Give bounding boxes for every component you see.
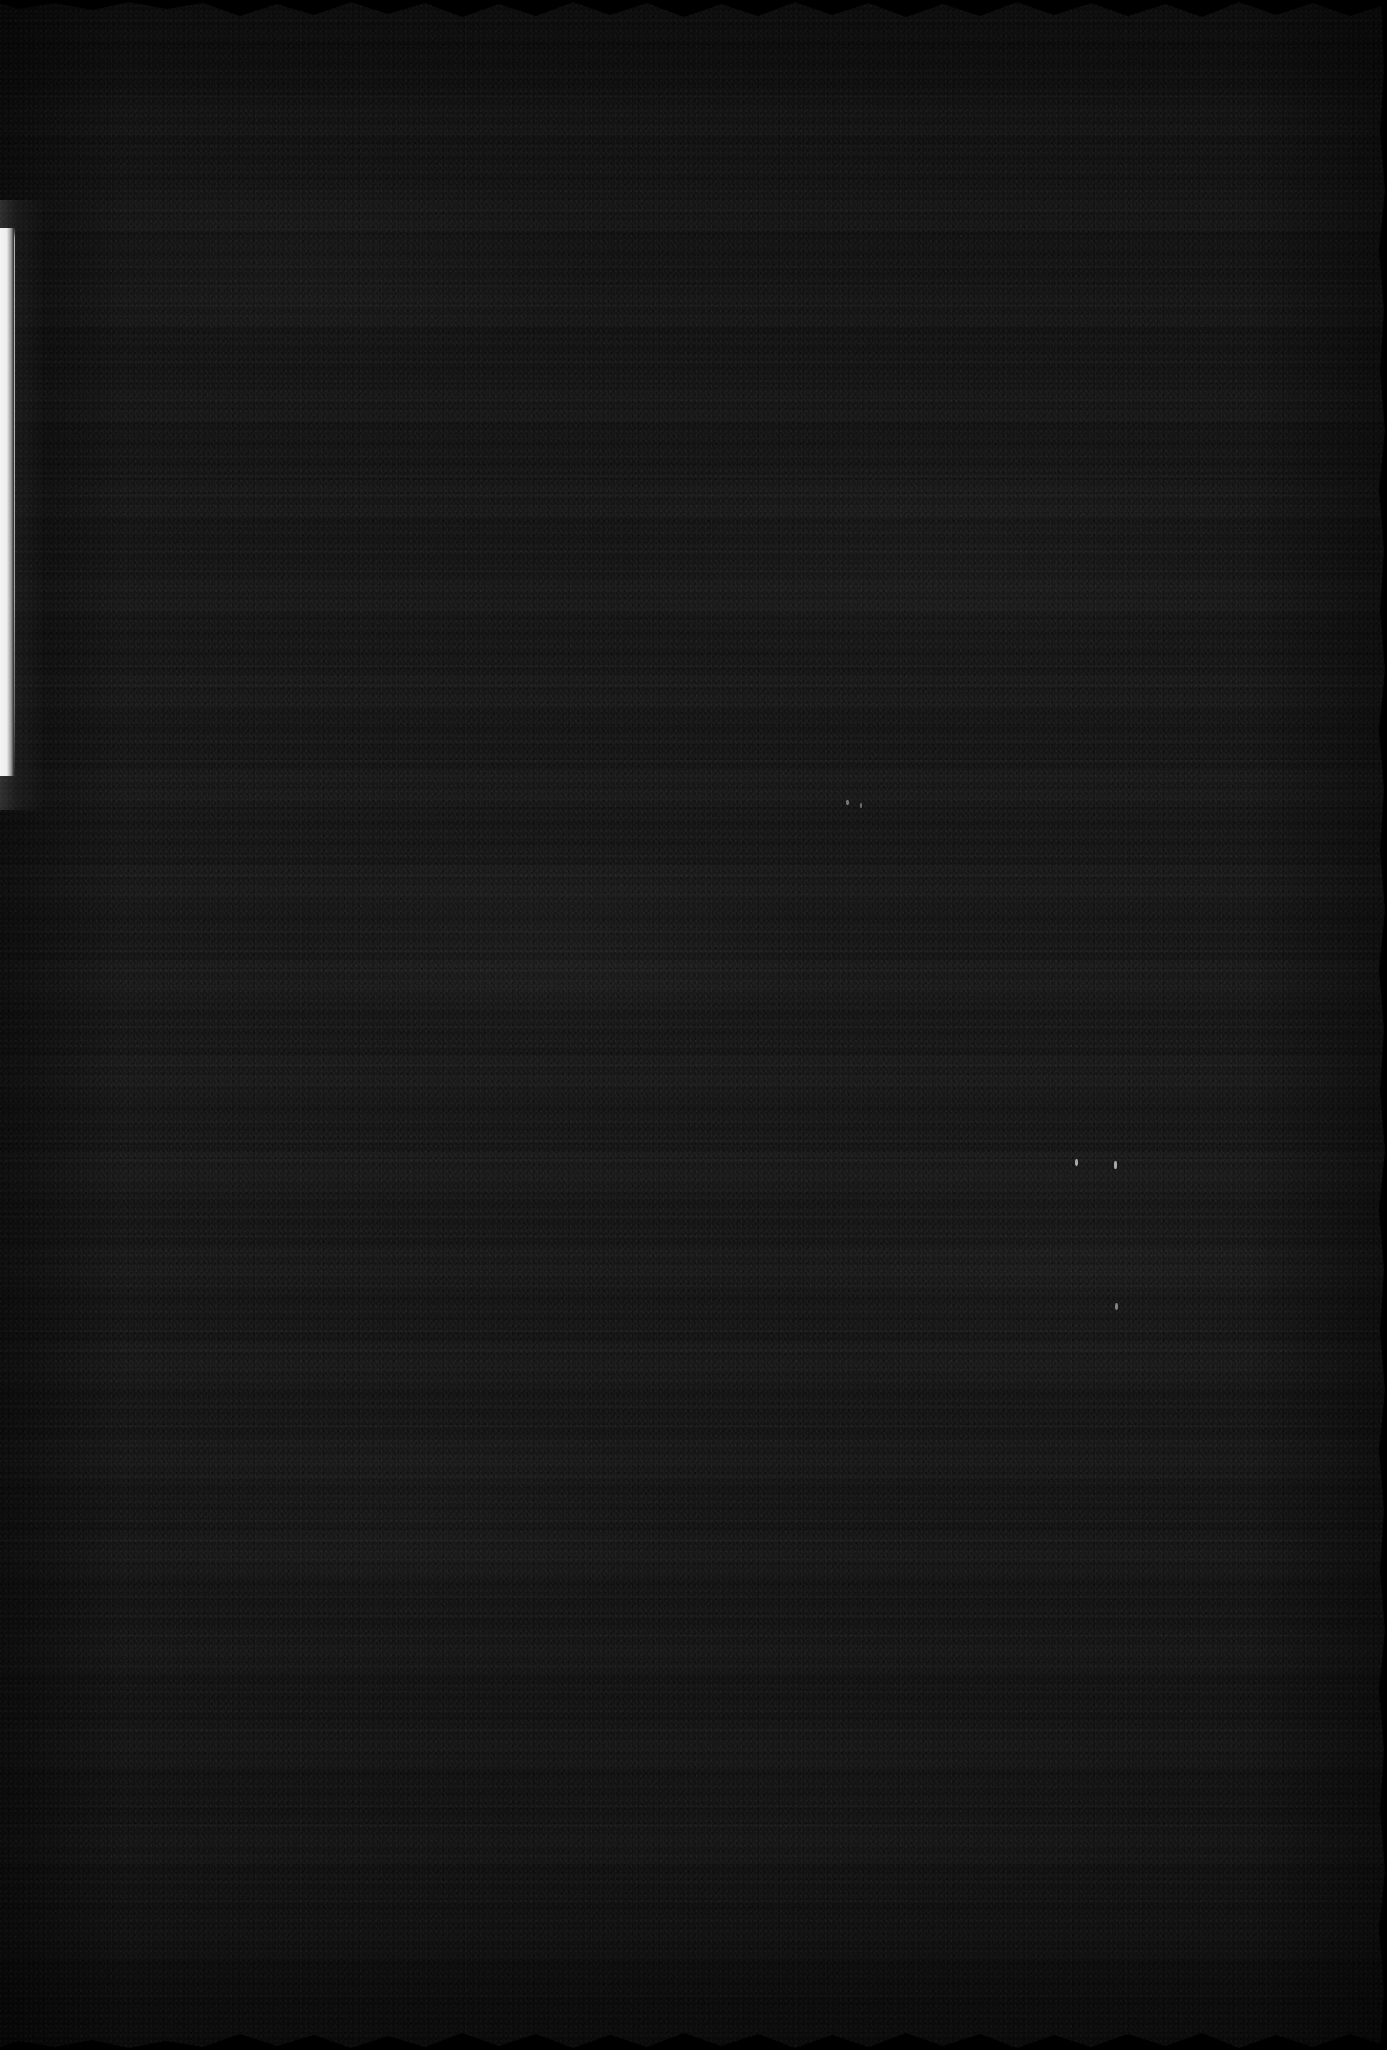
scanned-page-canvas: Severely underexposed scan of a textured…: [0, 0, 1387, 2050]
paper-surface: [0, 0, 1387, 2050]
